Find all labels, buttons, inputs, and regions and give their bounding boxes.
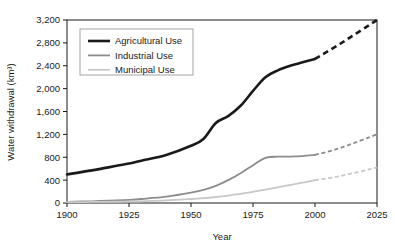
- series-line-solid: [67, 180, 315, 202]
- x-tick-label: 1900: [56, 209, 77, 220]
- x-tick-label: 1975: [242, 209, 263, 220]
- x-axis-ticks: 190019251950197520002025: [56, 203, 387, 220]
- x-tick-label: 2025: [366, 209, 387, 220]
- y-tick-label: 800: [44, 152, 60, 163]
- y-tick-label: 1,200: [36, 129, 60, 140]
- x-tick-label: 1950: [180, 209, 201, 220]
- series-line-solid: [67, 155, 315, 202]
- y-axis-title: Water withdrawal (km³): [5, 63, 16, 160]
- y-tick-label: 400: [44, 175, 60, 186]
- water-withdrawal-chart: 04008001,2001,6002,0002,4002,8003,200 19…: [0, 0, 395, 249]
- series-3: [67, 168, 377, 203]
- x-tick-label: 2000: [304, 209, 325, 220]
- chart-canvas: 04008001,2001,6002,0002,4002,8003,200 19…: [0, 0, 395, 249]
- y-tick-label: 2,400: [36, 60, 60, 71]
- x-tick-label: 1925: [118, 209, 139, 220]
- x-axis-title: Year: [212, 231, 231, 242]
- legend-label-1: Agricultural Use: [115, 35, 182, 46]
- legend-label-2: Industrial Use: [115, 50, 173, 61]
- y-tick-label: 1,600: [36, 106, 60, 117]
- series-line-projection: [315, 168, 377, 181]
- y-tick-label: 3,200: [36, 14, 60, 25]
- y-tick-label: 0: [55, 197, 60, 208]
- y-tick-label: 2,800: [36, 37, 60, 48]
- series-line-projection: [315, 134, 377, 155]
- chart-legend: Agricultural UseIndustrial UseMunicipal …: [80, 29, 193, 75]
- series-2: [67, 134, 377, 201]
- series-line-projection: [315, 20, 377, 59]
- legend-label-3: Municipal Use: [115, 64, 175, 75]
- y-tick-label: 2,000: [36, 83, 60, 94]
- y-axis-ticks: 04008001,2001,6002,0002,4002,8003,200: [36, 14, 67, 208]
